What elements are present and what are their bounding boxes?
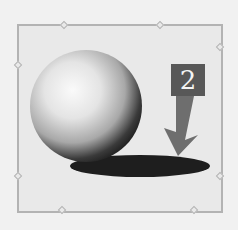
diagram-graphics (0, 0, 238, 230)
arrow-down-icon (164, 96, 198, 156)
number-label-box: 2 (171, 64, 205, 96)
sphere (30, 50, 142, 162)
number-label: 2 (180, 67, 197, 93)
